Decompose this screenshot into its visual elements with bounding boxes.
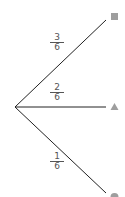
denominator: 6 (50, 162, 64, 171)
branch-label-circle: 1 6 (50, 152, 64, 171)
circle-icon (111, 193, 119, 197)
branch-line-circle (15, 107, 106, 193)
triangle-icon (111, 103, 119, 110)
branch-label-triangle: 2 6 (50, 83, 64, 102)
branch-label-square: 3 6 (50, 33, 64, 52)
denominator: 6 (50, 43, 64, 52)
square-icon (111, 13, 118, 20)
denominator: 6 (50, 93, 64, 102)
